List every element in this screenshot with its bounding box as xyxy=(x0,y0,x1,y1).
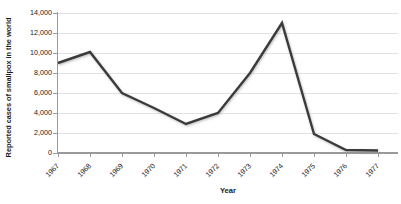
y-tick-mark-8000 xyxy=(53,73,57,74)
x-tick-mark-1976 xyxy=(346,153,347,157)
x-tick-mark-1969 xyxy=(122,153,123,157)
x-tick-mark-1967 xyxy=(58,153,59,157)
x-tick-mark-1971 xyxy=(186,153,187,157)
y-tick-mark-10000 xyxy=(53,53,57,54)
y-tick-mark-14000 xyxy=(53,13,57,14)
x-axis-title: Year xyxy=(58,186,398,195)
smallpox-line-chart: Reported cases of smallpox in the world … xyxy=(0,0,401,204)
x-tick-mark-1975 xyxy=(314,153,315,157)
x-tick-mark-1968 xyxy=(90,153,91,157)
y-tick-mark-2000 xyxy=(53,133,57,134)
x-tick-mark-1977 xyxy=(378,153,379,157)
y-tick-mark-6000 xyxy=(53,93,57,94)
x-tick-mark-1974 xyxy=(282,153,283,157)
y-tick-mark-4000 xyxy=(53,113,57,114)
x-axis-tick-labels: 1967196819691970197119721973197419751976… xyxy=(0,0,401,204)
y-tick-mark-0 xyxy=(53,153,57,154)
y-tick-mark-12000 xyxy=(53,33,57,34)
x-tick-mark-1970 xyxy=(154,153,155,157)
x-tick-mark-1973 xyxy=(250,153,251,157)
x-tick-mark-1972 xyxy=(218,153,219,157)
